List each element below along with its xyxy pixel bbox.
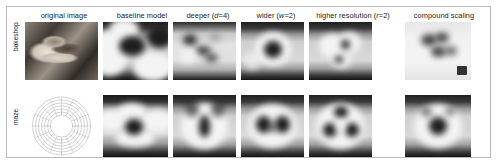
row-label-text: maze bbox=[12, 116, 19, 125]
activation-blob bbox=[133, 52, 168, 80]
activation-blob bbox=[211, 101, 225, 117]
cell-maze-deeper bbox=[173, 95, 236, 157]
activation-blob bbox=[335, 121, 346, 131]
activation-blob bbox=[457, 66, 467, 75]
cell-bakeshop-deeper bbox=[173, 22, 236, 80]
activation-blob bbox=[125, 119, 143, 135]
activation-blob bbox=[185, 101, 199, 117]
cell-bakeshop-baseline-model bbox=[103, 22, 168, 80]
cell-bakeshop-wider bbox=[241, 22, 304, 80]
column-header-baseline-model: baseline model bbox=[103, 11, 181, 20]
column-header-label: wider ( bbox=[257, 11, 280, 20]
activation-blob bbox=[421, 107, 432, 117]
column-header-deeper: deeper (d=4) bbox=[173, 11, 243, 20]
cell-maze-compound-scaling bbox=[405, 95, 471, 157]
activation-blob bbox=[435, 32, 449, 43]
activation-blob bbox=[335, 56, 343, 63]
activation-blob bbox=[199, 115, 210, 137]
cell-bakeshop-original-image bbox=[25, 22, 98, 80]
column-header-value: =2) bbox=[284, 11, 295, 20]
activation-blob bbox=[147, 26, 168, 48]
activation-blob bbox=[345, 123, 359, 137]
activation-blob bbox=[243, 52, 261, 70]
activation-blob bbox=[445, 46, 457, 56]
column-header-original-image: original image bbox=[25, 11, 103, 20]
activation-blob bbox=[429, 117, 447, 135]
activation-blob bbox=[341, 40, 350, 49]
row-label-bakeshop: bakeshop bbox=[11, 43, 20, 50]
maze-line-drawing bbox=[25, 95, 98, 157]
column-header-value: =2) bbox=[379, 11, 390, 20]
column-header-label: higher resolution ( bbox=[316, 11, 376, 20]
cell-maze-original-image bbox=[25, 95, 98, 157]
activation-blob bbox=[268, 121, 277, 133]
row-label-maze: maze bbox=[11, 117, 20, 124]
cell-bakeshop-compound-scaling bbox=[405, 22, 471, 80]
column-header-compound-scaling: compound scaling bbox=[399, 11, 489, 20]
activation-blob bbox=[209, 32, 221, 42]
activation-blob bbox=[183, 34, 197, 46]
activation-blob bbox=[334, 106, 348, 118]
activation-blob bbox=[119, 36, 145, 56]
activation-blob bbox=[179, 48, 197, 64]
activation-blob bbox=[264, 41, 282, 58]
activation-blob bbox=[445, 107, 455, 116]
column-header-value: =4) bbox=[219, 11, 230, 20]
photo-bakeshop bbox=[25, 22, 98, 80]
cell-maze-higher-resolution bbox=[309, 95, 372, 157]
activation-blob bbox=[275, 116, 290, 133]
column-header-label: compound scaling bbox=[414, 11, 474, 20]
column-header-label: deeper ( bbox=[186, 11, 214, 20]
column-header-wider: wider (w=2) bbox=[241, 11, 311, 20]
column-header-label: original image bbox=[41, 11, 88, 20]
cell-maze-baseline-model bbox=[103, 95, 168, 157]
figure-frame: original image baseline model deeper (d=… bbox=[6, 6, 491, 158]
image-grid: original image baseline model deeper (d=… bbox=[7, 7, 490, 157]
activation-blob bbox=[205, 54, 218, 62]
activation-blob bbox=[431, 46, 446, 57]
cell-maze-wider bbox=[241, 95, 304, 157]
column-header-higher-resolution: higher resolution (r=2) bbox=[303, 11, 403, 20]
row-label-text: bakeshop bbox=[12, 42, 19, 51]
column-header-label: baseline model bbox=[117, 11, 167, 20]
cell-bakeshop-higher-resolution bbox=[309, 22, 372, 80]
